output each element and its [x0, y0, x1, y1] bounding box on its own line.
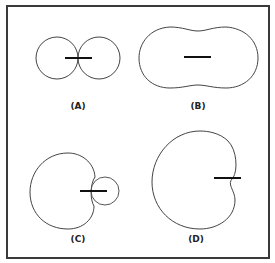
label-b: (B) — [190, 101, 205, 111]
figure-c — [30, 153, 119, 229]
pattern-outline — [152, 131, 236, 229]
polar-patterns-diagram — [0, 0, 275, 263]
label-c: (C) — [71, 234, 86, 244]
figure-d — [152, 131, 241, 229]
figure-b — [139, 27, 258, 88]
label-d: (D) — [188, 234, 204, 244]
figure-a — [36, 37, 120, 79]
label-a: (A) — [70, 101, 85, 111]
